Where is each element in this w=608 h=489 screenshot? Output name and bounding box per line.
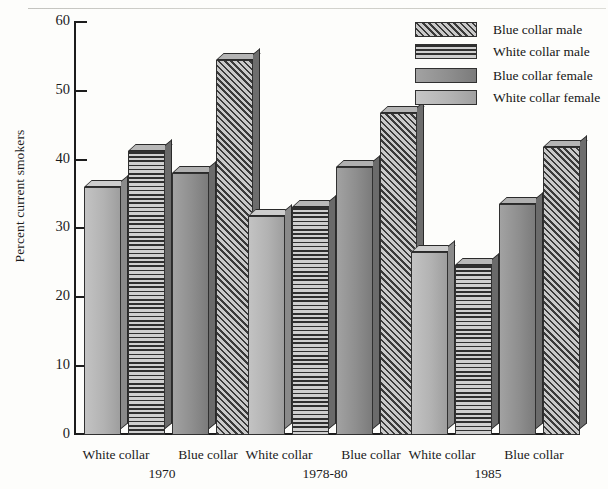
bar-side-face (373, 155, 380, 429)
bar-front-face (172, 173, 209, 435)
bar-front-face (455, 265, 492, 435)
bar-side-face (448, 240, 455, 429)
bar-side-face (285, 204, 292, 429)
bar-front-face (411, 252, 448, 435)
bar-front-face (292, 207, 329, 435)
bar-1985-blue-collar-male (543, 147, 580, 435)
bar-1978-80-white-collar-male (292, 207, 329, 435)
bar-side-face (492, 253, 499, 429)
bar-front-face (543, 147, 580, 435)
legend-label-blue-collar-male: Blue collar male (493, 20, 582, 39)
bar-front-face (336, 167, 373, 435)
legend-label-white-collar-female: White collar female (493, 88, 600, 107)
bar-front-face (499, 204, 536, 435)
bar-1985-white-collar-male (455, 265, 492, 435)
bar-side-face (165, 139, 172, 429)
bar-1985-blue-collar-female (499, 204, 536, 435)
plot-area: 60 50 40 30 20 10 0 Percent current smok… (0, 0, 608, 489)
x-label-1985-white-collar: White collar (392, 447, 492, 463)
bar-1970-blue-collar-female (172, 173, 209, 435)
bar-1978-80-blue-collar-female (336, 167, 373, 435)
bar-1970-white-collar-female (84, 187, 121, 435)
x-label-period-1985: 1985 (438, 466, 538, 482)
bar-1985-white-collar-female (411, 252, 448, 435)
bar-front-face (128, 151, 165, 435)
bar-side-face (209, 161, 216, 429)
legend-label-white-collar-male: White collar male (493, 42, 590, 61)
legend-swatch-blue-collar-male-icon (415, 22, 477, 37)
bar-side-face (121, 175, 128, 429)
x-label-1985-blue-collar: Blue collar (484, 447, 584, 463)
bar-1978-80-white-collar-female (248, 216, 285, 435)
x-label-1978-80-white-collar: White collar (229, 447, 329, 463)
bar-1970-white-collar-male (128, 151, 165, 435)
bar-front-face (84, 187, 121, 435)
bar-side-face (580, 135, 587, 429)
x-label-1970-white-collar: White collar (66, 447, 166, 463)
bar-side-face (536, 192, 543, 429)
x-label-period-1970: 1970 (112, 466, 212, 482)
legend-label-blue-collar-female: Blue collar female (493, 66, 593, 85)
legend-swatch-white-collar-male-icon (415, 44, 477, 59)
bar-side-face (329, 195, 336, 429)
x-label-period-1978-80: 1978-80 (275, 466, 375, 482)
legend-swatch-blue-collar-female-icon (415, 68, 477, 83)
legend-swatch-white-collar-female-icon (415, 90, 477, 105)
chart-root: 60 50 40 30 20 10 0 Percent current smok… (0, 0, 608, 489)
bar-front-face (248, 216, 285, 435)
